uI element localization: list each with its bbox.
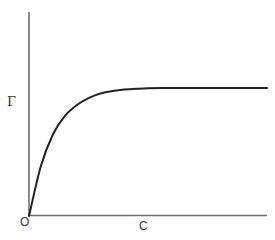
chart-canvas — [0, 0, 275, 240]
isotherm-curve — [29, 88, 267, 216]
origin-label: O — [20, 216, 29, 228]
x-axis-label: C — [139, 220, 148, 232]
y-axis-label: Γ — [7, 95, 16, 108]
